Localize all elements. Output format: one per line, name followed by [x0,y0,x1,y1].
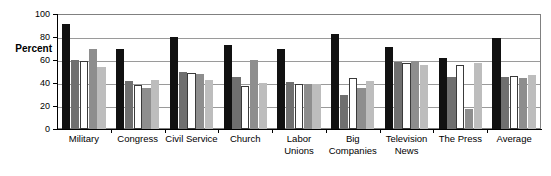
x-tick-label-line: Unions [272,145,326,157]
x-tick-mark [111,129,112,133]
bar [80,61,88,129]
bar [151,80,159,129]
x-tick-mark [380,129,381,133]
x-tick-label-line: Companies [326,145,380,157]
bar-chart: 020406080100 Percent MilitaryCongressCiv… [0,0,551,176]
x-tick-label-line: Labor [272,133,326,145]
bar [62,24,70,129]
y-axis-tick-labels: 020406080100 [0,0,52,176]
y-tick-label: 40 [0,79,50,88]
bar [277,49,285,130]
bar-group [116,14,159,129]
bar [366,81,374,129]
x-tick-label-line: Big [326,133,380,145]
bar [250,60,258,129]
bar [312,84,320,129]
y-tick-mark [53,37,57,38]
bar-group [385,14,428,129]
bar [259,83,267,129]
bar [501,77,509,129]
y-tick-mark [53,14,57,15]
x-tick-mark [218,129,219,133]
bar [340,95,348,130]
x-tick-label: Civil Service [165,133,219,145]
x-tick-label-line: Military [57,133,111,145]
x-axis-line [57,129,542,130]
bar [510,76,518,129]
y-tick-mark [53,129,57,130]
bar-group [492,14,535,129]
bar [402,63,410,129]
x-tick-label: TelevisionNews [380,133,434,156]
y-tick-label: 100 [0,10,50,19]
bar [116,49,124,130]
x-tick-label-line: Television [380,133,434,145]
bar [394,62,402,129]
x-tick-label-line: Church [218,133,272,145]
y-tick-label: 0 [0,125,50,134]
bar [385,47,393,129]
bar [447,77,455,129]
bar [528,75,536,129]
y-axis-title: Percent [0,44,52,54]
bar [125,81,133,129]
x-tick-label: Church [218,133,272,145]
y-tick-mark [53,83,57,84]
x-tick-label: Average [487,133,541,145]
x-tick-label: BigCompanies [326,133,380,156]
x-tick-label-line: News [380,145,434,157]
bar-group [224,14,267,129]
bar [349,78,357,129]
bar [224,45,232,129]
y-tick-label: 80 [0,33,50,42]
bar [357,88,365,129]
bar [439,58,447,129]
y-tick-mark [53,60,57,61]
bar [187,73,195,129]
x-tick-label-line: The Press [433,133,487,145]
y-tick-mark [53,106,57,107]
bar [205,80,213,129]
bar [142,88,150,129]
bar [456,65,464,129]
x-tick-mark [433,129,434,133]
bar-group [62,14,105,129]
bar [170,37,178,129]
bar [295,84,303,129]
bar-group [331,14,374,129]
y-tick-label: 20 [0,102,50,111]
x-tick-label-line: Average [487,133,541,145]
bar [420,65,428,129]
bar [411,61,419,129]
x-tick-mark [165,129,166,133]
bar [71,60,79,129]
bar [134,85,142,129]
bar-group [170,14,213,129]
x-tick-label-line: Congress [111,133,165,145]
y-tick-label: 60 [0,56,50,65]
x-tick-label-line: Civil Service [165,133,219,145]
x-tick-label: Congress [111,133,165,145]
bar [492,38,500,129]
bar [474,63,482,129]
y-axis-line [57,14,58,130]
bar [304,84,312,129]
bar [465,109,473,129]
x-tick-label: The Press [433,133,487,145]
bar [196,74,204,129]
bar [331,34,339,129]
x-tick-label: LaborUnions [272,133,326,156]
bar [519,78,527,129]
x-tick-mark [272,129,273,133]
bar [97,67,105,129]
bar [179,72,187,130]
bar [286,82,294,129]
x-tick-label: Military [57,133,111,145]
bar [89,49,97,130]
x-tick-mark [487,129,488,133]
bar-group [439,14,482,129]
bar-group [277,14,320,129]
x-axis-tick-labels: MilitaryCongressCivil ServiceChurchLabor… [57,133,541,176]
x-tick-mark [326,129,327,133]
bar [241,86,249,129]
